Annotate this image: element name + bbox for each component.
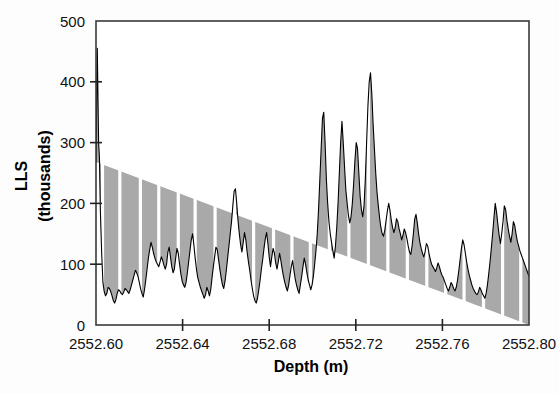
data-gap-bar (309, 21, 312, 325)
x-axis-title: Depth (m) (274, 358, 349, 375)
data-gap-bar (157, 21, 160, 325)
data-gap-bar (233, 21, 236, 325)
y-tick-label: 0 (77, 317, 85, 334)
data-gap-bar (252, 21, 255, 325)
data-gap-bar (347, 21, 350, 325)
x-tick-label: 2552.64 (155, 335, 209, 352)
x-tick-label: 2552.76 (415, 335, 469, 352)
figure-container: 0100200300400500 2552.602552.642552.6825… (0, 0, 559, 394)
data-gap-bar (386, 21, 389, 325)
x-tick-label: 2552.60 (69, 335, 123, 352)
x-tick-label: 2552.72 (329, 335, 383, 352)
data-gap-bar (425, 21, 428, 325)
data-gap-bar (501, 21, 504, 325)
y-axis-tick-labels: 0100200300400500 (60, 13, 85, 334)
y-tick-label: 400 (60, 73, 85, 90)
y-tick-label: 100 (60, 256, 85, 273)
y-tick-label: 200 (60, 195, 85, 212)
data-gap-bar (482, 21, 485, 325)
data-gap-bar (139, 21, 142, 325)
data-gap-bar (118, 21, 121, 325)
y-axis-title-line1: LLS (13, 161, 30, 192)
data-gap-bar (213, 21, 216, 325)
data-gap-bar (462, 21, 465, 325)
data-gap-bar (177, 21, 180, 325)
data-gap-bar (272, 21, 275, 325)
data-gap-bar (290, 21, 293, 325)
y-tick-label: 300 (60, 134, 85, 151)
data-gap-bar (444, 21, 447, 325)
chart-svg: 0100200300400500 2552.602552.642552.6825… (0, 0, 559, 394)
data-gap-bar (194, 21, 197, 325)
data-gap-bar (367, 21, 370, 325)
x-axis-tick-labels: 2552.602552.642552.682552.722552.762552.… (69, 335, 556, 352)
x-tick-label: 2552.68 (242, 335, 296, 352)
y-tick-label: 500 (60, 13, 85, 30)
x-tick-label: 2552.80 (502, 335, 556, 352)
data-gap-bar (519, 21, 522, 325)
data-gap-bar (328, 21, 331, 325)
y-axis-title-line2: (thousands) (36, 130, 53, 222)
data-gap-bar (406, 21, 409, 325)
